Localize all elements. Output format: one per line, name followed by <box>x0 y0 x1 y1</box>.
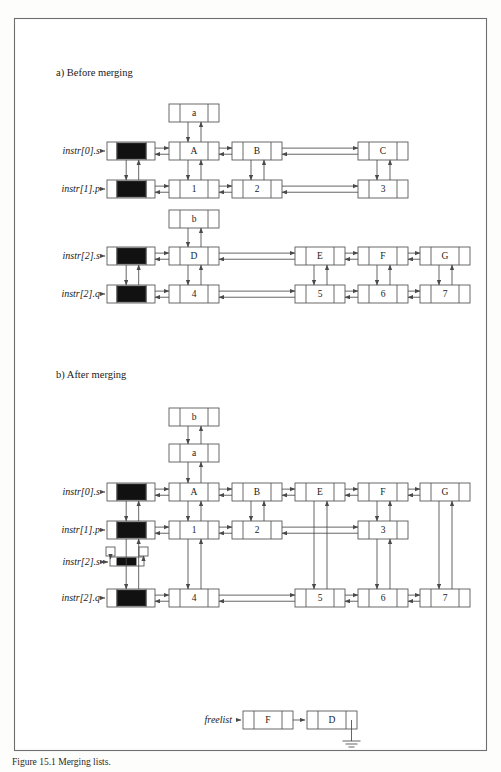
node-value: D <box>191 251 198 261</box>
node-value: 3 <box>381 184 386 194</box>
node-value: F <box>265 715 270 725</box>
node-value: 5 <box>318 289 323 299</box>
pointer-label: instr[2].q <box>61 288 100 299</box>
node-value: F <box>380 251 385 261</box>
node-value: B <box>254 146 260 156</box>
node-value: E <box>317 251 323 261</box>
self-loop-box <box>106 547 115 556</box>
node-value: 4 <box>192 289 197 299</box>
figure-caption: Figure 15.1 Merging lists. <box>12 757 482 772</box>
node-value: C <box>380 146 386 156</box>
node-value: D <box>329 715 336 725</box>
node-value: F <box>380 487 385 497</box>
node-value: 3 <box>381 525 386 535</box>
figure-page: instr[0].sABCinstr[1].p123ainstr[2].sDEF… <box>0 0 501 772</box>
linked-list-diagram: instr[0].sABCinstr[1].p123ainstr[2].sDEF… <box>0 0 501 772</box>
node-value: 5 <box>318 593 323 603</box>
node-value: b <box>192 412 197 422</box>
list-header-fill <box>117 248 146 264</box>
node-value: 6 <box>381 593 386 603</box>
node-value: 1 <box>192 184 197 194</box>
node-value: 2 <box>255 525 260 535</box>
node-value: A <box>191 487 198 497</box>
pointer-label: instr[1].p <box>61 183 100 194</box>
node-value: E <box>317 487 323 497</box>
node-value: 4 <box>192 593 197 603</box>
list-header-fill <box>117 522 146 538</box>
node-value: G <box>442 251 449 261</box>
node-value: 2 <box>255 184 260 194</box>
node-value: 7 <box>443 593 448 603</box>
pointer-label: instr[2].s <box>62 250 100 261</box>
list-header-fill <box>117 181 146 197</box>
list-header-fill <box>117 484 146 500</box>
panel-a-heading: a) Before merging <box>56 67 134 79</box>
node-value: b <box>192 214 197 224</box>
list-header-fill <box>117 143 146 159</box>
node-value: 1 <box>192 525 197 535</box>
node-value: 6 <box>381 289 386 299</box>
pointer-label: instr[2].s <box>62 556 100 567</box>
list-header-fill <box>117 286 146 302</box>
pointer-label: instr[0].s <box>62 486 100 497</box>
pointer-label: instr[2].q <box>61 592 100 603</box>
panel-b-heading: b) After merging <box>56 369 127 381</box>
node-value: A <box>191 146 198 156</box>
freelist-label: freelist <box>205 714 233 725</box>
node-value: B <box>254 487 260 497</box>
node-value: 7 <box>443 289 448 299</box>
node-value: G <box>442 487 449 497</box>
pointer-label: instr[0].s <box>62 145 100 156</box>
self-loop-box <box>139 547 148 556</box>
list-header-fill <box>117 590 146 606</box>
pointer-label: instr[1].p <box>61 524 100 535</box>
figure-frame <box>15 19 487 751</box>
